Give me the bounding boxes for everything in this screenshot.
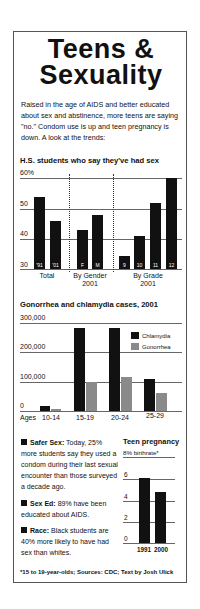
bar-grade-11: 11 xyxy=(150,203,161,269)
group-label-gender: By Gender 2001 xyxy=(66,272,114,288)
bar-grade-10: 10 xyxy=(134,236,145,269)
xtick-25-29: 25-29 xyxy=(142,412,168,420)
ytick-100k: 100,000 xyxy=(20,373,45,380)
gridline-200k xyxy=(20,352,182,353)
note-safer-sex: Safer Sex: Today, 25% more students say … xyxy=(21,437,119,492)
ytick-50: 50 xyxy=(20,200,28,207)
ytick-40: 40 xyxy=(20,230,28,237)
gridline-0 xyxy=(123,543,175,544)
group-label-total: Total xyxy=(30,272,64,280)
gridline-60 xyxy=(20,178,182,179)
bullet-square-icon xyxy=(21,527,27,533)
xtick-15-19: 15-19 xyxy=(72,414,98,422)
title-line-2: Sexuality xyxy=(14,62,188,88)
ytick-30: 30 xyxy=(20,261,28,268)
xtick-2000: 2000 xyxy=(152,546,170,554)
bar-grade-9: 9 xyxy=(119,256,130,269)
chart2-title: Gonorrhea and chlamydia cases, 2001 xyxy=(20,300,158,309)
ytick-60: 60% xyxy=(20,169,34,176)
bar-gender-m: M xyxy=(92,215,103,269)
bar-gonorrhea-15-19 xyxy=(86,382,97,411)
gridline-100k xyxy=(20,382,182,383)
infographic-frame: Teens & Sexuality Raised in the age of A… xyxy=(13,31,187,583)
bullet-square-icon xyxy=(21,439,27,445)
ytick-4: 4 xyxy=(124,493,128,500)
title-line-1: Teens & xyxy=(14,36,188,62)
gridline-8 xyxy=(123,457,175,458)
legend-swatch-gonorrhea xyxy=(131,343,139,350)
intro-text: Raised in the age of AIDS and better edu… xyxy=(21,99,185,143)
legend-swatch-chlamydia xyxy=(131,332,139,339)
legend-gonorrhea: Gonorrhea xyxy=(131,343,171,350)
xtick-1991: 1991 xyxy=(135,546,153,554)
group-label-grade: By Grade 2001 xyxy=(122,272,174,288)
xtick-20-24: 20-24 xyxy=(107,414,133,422)
bar-pregnancy-2000 xyxy=(155,492,166,543)
gridline-30 xyxy=(20,269,182,270)
bar-chlamydia-25-29 xyxy=(144,379,155,411)
ytick-2: 2 xyxy=(124,514,128,521)
bar-gonorrhea-20-24 xyxy=(121,377,132,411)
note-race: Race: Black students are 40% more likely… xyxy=(21,525,119,558)
ytick-200k: 200,000 xyxy=(20,343,45,350)
xlabel-ages: Ages xyxy=(20,414,40,422)
divider-1 xyxy=(69,174,70,272)
footer-source: *15 to 19-year-olds; Sources: CDC; Text … xyxy=(20,569,173,575)
ytick-0: 0 xyxy=(124,535,128,542)
note-sex-ed: Sex Ed: 89% have been educated about AID… xyxy=(21,498,119,520)
bar-chlamydia-20-24 xyxy=(109,328,120,411)
bar-gonorrhea-25-29 xyxy=(156,393,167,411)
bar-total-91: '91 xyxy=(34,197,45,269)
page-title: Teens & Sexuality xyxy=(14,36,188,88)
ytick-0: 0 xyxy=(20,402,24,409)
ytick-6: 6 xyxy=(124,471,128,478)
bar-gonorrhea-10-14 xyxy=(51,409,61,411)
bar-chlamydia-10-14 xyxy=(40,406,50,411)
gridline-300k xyxy=(20,323,182,324)
ytick-300k: 300,000 xyxy=(20,314,45,321)
chart1-title: H.S. students who say they've had sex xyxy=(20,156,159,165)
bar-pregnancy-1991 xyxy=(139,478,150,543)
bar-grade-12: 12 xyxy=(166,178,177,269)
xtick-10-14: 10-14 xyxy=(38,414,64,422)
divider-2 xyxy=(113,174,114,272)
chart3-title: Teen pregnancy xyxy=(123,437,179,446)
bullet-square-icon xyxy=(21,500,27,506)
legend-chlamydia: Chlamydia xyxy=(131,332,170,339)
bar-chlamydia-15-19 xyxy=(74,328,85,411)
bar-total-01: '01 xyxy=(50,221,61,269)
bar-gender-f: F xyxy=(77,230,88,269)
chart3-subtitle: 8% birthrate* xyxy=(123,449,159,456)
